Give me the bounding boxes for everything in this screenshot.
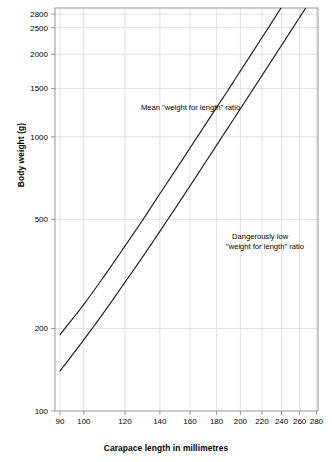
y-tick-label: 100 [35, 407, 49, 416]
data-curve-dangerously-low-ratio [60, 8, 305, 370]
y-axis-title: Body weight (g) [16, 90, 26, 220]
y-tick-label: 1500 [30, 84, 48, 93]
mean-ratio-annotation: Mean "weight for length" ratio [141, 103, 240, 112]
low-ratio-annotation-line2: "weight for length" ratio [226, 242, 304, 251]
curve-annotations-group: Mean "weight for length" ratioDangerousl… [141, 103, 304, 251]
plot-frame [55, 8, 318, 411]
gridlines-group [55, 8, 318, 411]
tick-marks-group [51, 14, 316, 415]
y-tick-label: 1000 [30, 133, 48, 142]
chart-container: 9010012014016018020022024026028010020050… [0, 0, 332, 462]
y-tick-label: 500 [35, 215, 49, 224]
y-tick-label: 2800 [30, 10, 48, 19]
chart-plot: 9010012014016018020022024026028010020050… [0, 0, 332, 462]
x-tick-label: 160 [183, 417, 197, 426]
x-axis-title: Carapace length in millimetres [0, 443, 332, 453]
x-tick-label: 100 [77, 417, 91, 426]
y-tick-label: 2500 [30, 24, 48, 33]
data-curves-group [60, 8, 305, 371]
x-tick-label: 200 [234, 417, 248, 426]
x-tick-label: 280 [310, 417, 324, 426]
low-ratio-annotation-line1: Dangerously low [232, 232, 289, 241]
tick-labels-group: 9010012014016018020022024026028010020050… [30, 10, 323, 426]
x-tick-label: 90 [56, 417, 65, 426]
x-tick-label: 180 [210, 417, 224, 426]
axes-group [55, 8, 318, 411]
y-tick-label: 2000 [30, 50, 48, 59]
data-curve-mean-ratio [60, 8, 281, 334]
x-tick-label: 260 [293, 417, 307, 426]
x-tick-label: 140 [153, 417, 167, 426]
x-tick-label: 220 [255, 417, 269, 426]
y-tick-label: 200 [35, 324, 49, 333]
x-tick-label: 240 [275, 417, 289, 426]
x-tick-label: 120 [118, 417, 132, 426]
